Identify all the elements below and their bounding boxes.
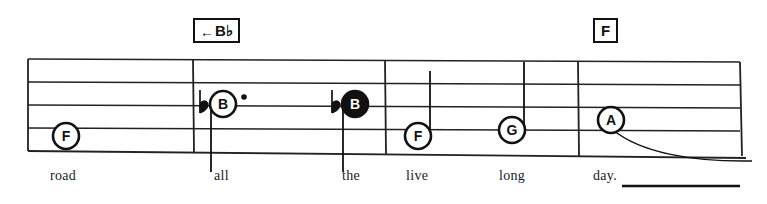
barline-1 [193,59,194,152]
chord-symbol-label-f: F [601,23,610,38]
notehead-g-1 [499,117,525,143]
staff-right-edge [740,62,742,156]
staff-svg [0,0,767,204]
lyric-all: all [214,168,229,184]
notehead-f-1 [53,123,79,149]
lyric-road: road [50,168,76,184]
lyric-the: the [342,168,360,184]
left-arrow-icon: ← [200,25,214,39]
chord-symbol-box-bb: ←B♭ [193,18,240,43]
flat-sign-b-flat-1 [200,90,208,113]
notehead-f-2 [405,123,431,149]
lyric-long: long [499,168,525,184]
lyric-live: live [406,168,428,184]
flat-sign-b-flat-2 [332,90,340,113]
staff-lines [28,59,746,158]
chord-symbol-box-f: F [593,18,618,43]
augmentation-dot-b-flat-1 [241,94,247,100]
barline-2 [385,60,386,154]
chord-symbol-label-bb: B♭ [215,23,233,38]
notehead-b-flat-2 [342,91,368,117]
barline-3 [578,61,579,156]
notehead-b-flat-1 [210,91,236,117]
music-notation-sheet: F B B F G A ←B♭ F road all the live long… [0,0,767,204]
notehead-a-1 [598,107,624,133]
lyric-day: day. [593,168,617,184]
